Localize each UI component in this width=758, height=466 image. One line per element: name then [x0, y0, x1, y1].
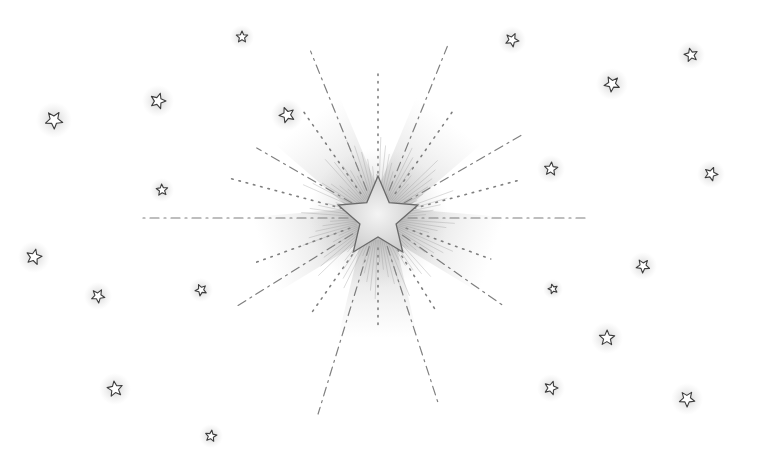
central-star — [308, 148, 448, 288]
star-illustration — [0, 0, 758, 466]
